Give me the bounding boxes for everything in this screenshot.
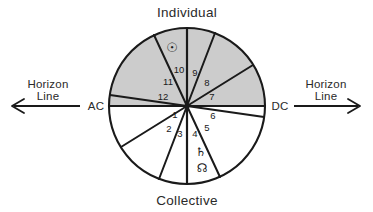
label-descendant: DC — [271, 100, 288, 112]
house-number-12: 12 — [158, 91, 169, 102]
house-number-10: 10 — [174, 64, 185, 75]
house-wheel-svg: Individual Collective AC Horizon Line DC… — [0, 0, 373, 212]
label-individual: Individual — [157, 5, 217, 20]
house-number-11: 11 — [163, 76, 173, 87]
label-ascendant: AC — [88, 100, 104, 112]
house-number-1: 1 — [172, 109, 177, 120]
house-number-6: 6 — [210, 110, 215, 121]
house-number-7: 7 — [209, 91, 214, 102]
house-number-4: 4 — [192, 128, 197, 139]
left-horizon-label-line1: Horizon — [27, 78, 68, 90]
house-number-3: 3 — [177, 128, 182, 139]
north-node-icon: ☊ — [197, 161, 208, 175]
house-number-9: 9 — [192, 67, 197, 78]
house-number-5: 5 — [204, 122, 209, 133]
saturn-icon: ♄ — [196, 145, 207, 159]
left-horizon-label-line2: Line — [37, 90, 60, 102]
house-number-2: 2 — [166, 123, 171, 134]
diagram-canvas: Individual Collective AC Horizon Line DC… — [0, 0, 373, 212]
label-collective: Collective — [156, 193, 218, 208]
sun-icon: ☉ — [166, 40, 178, 55]
right-horizon-label-line2: Line — [315, 90, 338, 102]
wheel-center-hub — [184, 103, 189, 108]
house-number-8: 8 — [204, 77, 209, 88]
right-horizon-label-line1: Horizon — [305, 78, 346, 90]
